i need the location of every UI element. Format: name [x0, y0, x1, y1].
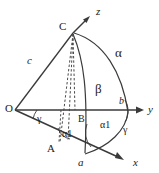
dashed-group — [59, 34, 75, 142]
point-label-B: B — [78, 113, 85, 124]
edge-OC — [15, 33, 73, 110]
axis-label-y: y — [147, 103, 153, 115]
x-axis-arrowhead — [115, 152, 124, 160]
angle-label-alpha1-a: α1 — [100, 119, 110, 130]
diagram-canvas: z y x O C A B a b c α β γ α1 α1 γ — [0, 0, 159, 173]
point-label-C: C — [59, 20, 66, 32]
dashed-CA — [60, 34, 73, 142]
side-label-alpha: α — [115, 45, 122, 60]
angle-label-gamma-right: γ — [122, 124, 128, 135]
label-group: z y x O C A B a b c α β γ α1 α1 γ — [5, 5, 153, 168]
point-label-a: a — [78, 156, 84, 168]
point-label-A: A — [47, 142, 55, 154]
edge-group — [15, 33, 84, 154]
side-label-c: c — [27, 54, 32, 66]
side-label-beta: β — [95, 81, 102, 96]
dashed-B-foot — [59, 110, 61, 142]
y-axis-arrowhead — [136, 107, 144, 114]
angle-label-alpha1-A: α1 — [62, 128, 72, 139]
geometry-diagram: z y x O C A B a b c α β γ α1 α1 γ — [0, 0, 159, 173]
point-label-O: O — [5, 102, 13, 114]
angle-label-gamma-origin: γ — [36, 113, 42, 124]
axis-group — [15, 16, 144, 160]
axis-label-x: x — [132, 156, 138, 168]
arc-b-marker — [125, 100, 128, 122]
point-label-b: b — [119, 95, 124, 106]
axis-label-z: z — [95, 5, 101, 17]
dashed-C-vertical — [68, 34, 73, 140]
